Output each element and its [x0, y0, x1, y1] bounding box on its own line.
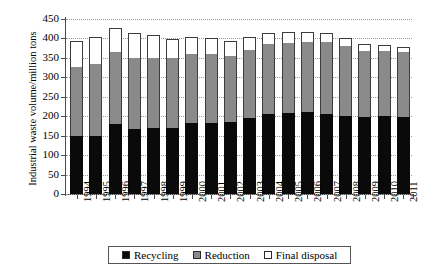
bar-segment-reduction — [282, 43, 295, 113]
y-tick-label: 150 — [21, 130, 59, 141]
bar-segment-final-disposal — [166, 39, 179, 58]
bar-segment-final-disposal — [185, 37, 198, 54]
x-tick-label: 1999 — [178, 168, 189, 202]
y-tick-label: 450 — [21, 13, 59, 24]
y-tick-mark — [61, 116, 65, 117]
x-tick-label: 2004 — [274, 168, 285, 202]
x-tick-mark — [250, 195, 251, 199]
x-tick-mark — [365, 195, 366, 199]
x-tick-label: 2008 — [351, 168, 362, 202]
bar-segment-reduction — [185, 54, 198, 123]
x-tick-mark — [192, 195, 193, 199]
y-tick-mark — [61, 155, 65, 156]
legend-label: Reduction — [205, 250, 250, 261]
x-tick-mark — [230, 195, 231, 199]
legend-label: Recycling — [134, 250, 179, 261]
legend-swatch-icon — [193, 251, 201, 259]
x-tick-mark — [307, 195, 308, 199]
y-tick-label: 50 — [21, 169, 59, 180]
x-tick-mark — [211, 195, 212, 199]
bar-segment-final-disposal — [301, 32, 314, 42]
x-tick-label: 1996 — [120, 168, 131, 202]
y-tick-mark — [61, 97, 65, 98]
bar-segment-final-disposal — [243, 37, 256, 50]
x-tick-label: 2002 — [235, 168, 246, 202]
y-tick-mark — [61, 136, 65, 137]
bar-segment-reduction — [320, 42, 333, 114]
x-tick-label: 2005 — [293, 168, 304, 202]
x-tick-label: 1995 — [101, 168, 112, 202]
bar-segment-reduction — [339, 46, 352, 116]
bar-segment-reduction — [205, 54, 218, 123]
legend-item[interactable]: Reduction — [193, 250, 250, 261]
x-tick-label: 1997 — [139, 168, 150, 202]
bar-segment-reduction — [243, 50, 256, 118]
y-tick-label: 250 — [21, 91, 59, 102]
bar-segment-reduction — [109, 52, 122, 124]
x-tick-label: 2009 — [370, 168, 381, 202]
y-tick-mark — [61, 19, 65, 20]
bar-segment-reduction — [378, 51, 391, 116]
y-tick-label: 300 — [21, 71, 59, 82]
x-tick-label: 2010 — [389, 168, 400, 202]
bar-segment-final-disposal — [205, 38, 218, 54]
bar-segment-reduction — [224, 56, 237, 122]
y-tick-label: 400 — [21, 32, 59, 43]
y-tick-mark — [61, 77, 65, 78]
x-tick-mark — [346, 195, 347, 199]
y-tick-mark — [61, 175, 65, 176]
bar-segment-final-disposal — [70, 41, 83, 67]
legend-item[interactable]: Recycling — [122, 250, 179, 261]
bar-segment-final-disposal — [109, 28, 122, 52]
y-tick-mark — [61, 38, 65, 39]
bar-segment-reduction — [70, 67, 83, 136]
bar-segment-reduction — [262, 44, 275, 113]
legend-label: Final disposal — [276, 250, 337, 261]
bar-segment-reduction — [397, 52, 410, 117]
bar-segment-reduction — [358, 51, 371, 118]
bar-segment-reduction — [128, 58, 141, 128]
legend-item[interactable]: Final disposal — [264, 250, 337, 261]
x-tick-mark — [288, 195, 289, 199]
x-tick-label: 2000 — [197, 168, 208, 202]
y-tick-label: 100 — [21, 149, 59, 160]
y-tick-mark — [61, 194, 65, 195]
legend-swatch-icon — [122, 251, 130, 259]
bar-segment-final-disposal — [128, 33, 141, 59]
x-tick-mark — [134, 195, 135, 199]
bar-segment-final-disposal — [339, 38, 352, 46]
x-tick-mark — [269, 195, 270, 199]
x-tick-label: 1998 — [159, 168, 170, 202]
bar-segment-final-disposal — [282, 32, 295, 43]
x-tick-mark — [77, 195, 78, 199]
x-tick-mark — [413, 195, 414, 199]
bar-segment-final-disposal — [89, 37, 102, 64]
x-tick-label: 2001 — [216, 168, 227, 202]
x-tick-mark — [173, 195, 174, 199]
bar-segment-final-disposal — [320, 33, 333, 42]
x-tick-mark — [115, 195, 116, 199]
bar-segment-final-disposal — [224, 41, 237, 56]
x-tick-mark — [154, 195, 155, 199]
y-tick-mark — [61, 58, 65, 59]
y-tick-label: 200 — [21, 110, 59, 121]
x-tick-label: 1994 — [82, 168, 93, 202]
x-tick-mark — [384, 195, 385, 199]
x-tick-label: 2007 — [332, 168, 343, 202]
y-tick-label: 0 — [21, 188, 59, 199]
chart-legend: RecyclingReductionFinal disposal — [108, 246, 351, 264]
bar-segment-reduction — [89, 64, 102, 136]
y-tick-label: 350 — [21, 52, 59, 63]
x-tick-mark — [96, 195, 97, 199]
x-tick-mark — [327, 195, 328, 199]
bar-segment-reduction — [166, 58, 179, 128]
chart-figure: Industrial waste volume/million tons 050… — [0, 0, 434, 272]
x-tick-mark — [403, 195, 404, 199]
x-tick-label: 2003 — [255, 168, 266, 202]
bar-segment-final-disposal — [262, 33, 275, 44]
x-tick-label: 2006 — [312, 168, 323, 202]
bar-segment-reduction — [147, 58, 160, 128]
bar-segment-final-disposal — [147, 35, 160, 57]
bar-segment-reduction — [301, 42, 314, 112]
legend-swatch-icon — [264, 251, 272, 259]
